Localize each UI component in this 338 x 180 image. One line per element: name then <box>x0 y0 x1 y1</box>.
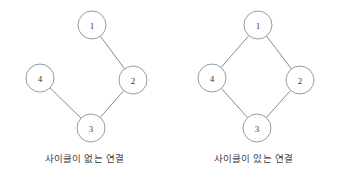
graph-node-label: 1 <box>256 21 261 31</box>
graph-figure: 1234 사이클이 없는 연결 1234 사이클이 있는 연결 <box>0 0 338 180</box>
graph-node: 1 <box>78 11 106 39</box>
graph-node-label: 2 <box>131 76 136 86</box>
graph-canvas-cyclic: 1234 <box>169 0 338 150</box>
graph-canvas-acyclic: 1234 <box>0 0 169 150</box>
graph-node-label: 3 <box>89 124 94 134</box>
graph-node: 2 <box>119 66 147 94</box>
graph-node-label: 2 <box>298 76 303 86</box>
graph-node-label: 4 <box>38 74 43 84</box>
graph-node: 3 <box>77 114 105 142</box>
caption-acyclic: 사이클이 없는 연결 <box>0 152 169 165</box>
graph-node: 4 <box>198 64 226 92</box>
graph-edge <box>50 88 81 118</box>
graph-node: 3 <box>243 114 271 142</box>
caption-cyclic: 사이클이 있는 연결 <box>169 152 338 165</box>
graph-node: 1 <box>244 11 272 39</box>
graph-node-label: 4 <box>210 74 215 84</box>
graph-node: 2 <box>286 66 314 94</box>
graph-edge <box>100 36 124 69</box>
graph-panel-cyclic: 1234 사이클이 있는 연결 <box>169 0 338 180</box>
graph-edge <box>100 91 124 118</box>
graph-panel-acyclic: 1234 사이클이 없는 연결 <box>0 0 169 180</box>
graph-edge <box>221 88 247 117</box>
graph-edge <box>266 36 291 69</box>
graph-node-label: 1 <box>90 21 95 31</box>
graph-node-label: 3 <box>255 124 260 134</box>
graph-edge <box>266 90 290 117</box>
graph-node: 4 <box>26 64 54 92</box>
graph-edge <box>221 36 249 68</box>
